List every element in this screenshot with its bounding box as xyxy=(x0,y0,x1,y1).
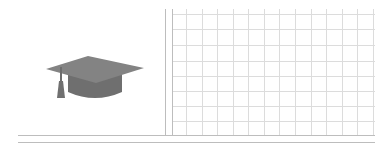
graph-paper-grid xyxy=(0,0,385,153)
illustration-canvas xyxy=(0,0,385,153)
